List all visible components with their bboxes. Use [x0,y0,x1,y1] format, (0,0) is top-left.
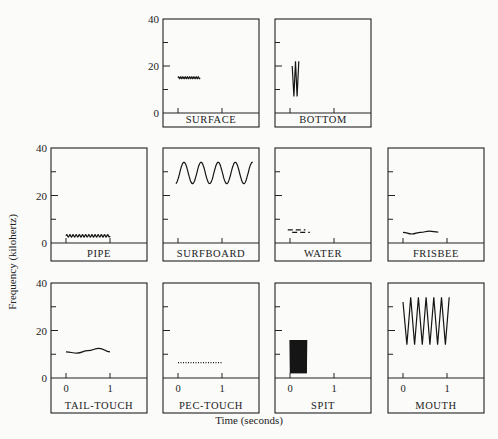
panel-frame [51,148,147,261]
panel-title: SURFBOARD [177,248,245,259]
y-tick-label: 20 [148,60,160,72]
x-tick-label: 0 [63,383,68,394]
y-tick-label: 20 [36,190,48,202]
panel-title: TAIL-TOUCH [65,400,134,411]
panel-bottom: BOTTOM [275,19,371,127]
y-tick-label: 40 [36,142,48,154]
y-tick-label: 0 [42,237,48,249]
y-tick-label: 0 [42,372,48,384]
x-tick-label: 1 [107,383,112,394]
data-trace [292,61,299,96]
panel-title: PEC-TOUCH [179,400,243,411]
panel-title: MOUTH [415,400,457,411]
x-axis-label: Time (seconds) [215,414,283,427]
data-trace [403,297,449,345]
y-axis-label: Frequency (kilohertz) [6,214,19,310]
panel-title: FRISBEE [413,248,459,259]
data-trace [178,77,200,79]
y-tick-label: 20 [36,325,48,337]
panel-tail-touch: 0204001TAIL-TOUCH [36,277,147,413]
x-tick-label: 0 [400,383,405,394]
x-tick-label: 0 [175,383,180,394]
y-tick-label: 0 [154,107,160,119]
panel-spit: 01SPIT [275,283,371,413]
x-tick-label: 0 [287,383,292,394]
y-tick-label: 40 [148,13,160,25]
data-trace [176,162,253,183]
x-tick-label: 1 [331,383,336,394]
x-tick-label: 1 [444,383,449,394]
data-trace [66,348,110,353]
panel-surfboard: SURFBOARD [163,148,259,261]
panel-frame [275,148,371,261]
panel-title: PIPE [87,248,111,259]
panel-mouth: 01MOUTH [388,283,484,413]
panel-frame [275,19,371,127]
x-tick-label: 1 [219,383,224,394]
panel-frisbee: FRISBEE [388,148,484,261]
data-trace [403,231,438,234]
figure: 02040SURFACEBOTTOM02040PIPESURFBOARDWATE… [0,0,498,439]
panel-title: SPIT [311,400,335,411]
panel-title: WATER [304,248,342,259]
panel-pipe: 02040PIPE [36,142,147,261]
panel-frame [388,148,484,261]
panel-pec-touch: 01PEC-TOUCH [163,283,259,413]
panel-water: WATER [275,148,371,261]
panel-surface: 02040SURFACE [148,13,259,127]
panel-title: SURFACE [186,114,237,125]
data-trace [290,340,307,373]
panel-frame [163,148,259,261]
y-tick-label: 40 [36,277,48,289]
panel-title: BOTTOM [299,114,347,125]
data-trace [66,235,110,237]
panel-frame [163,19,259,127]
